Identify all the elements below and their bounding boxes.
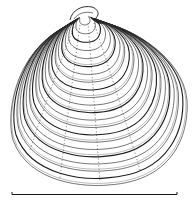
growth-lines — [11, 17, 187, 186]
shell-figure: Bivalve shell illustration — [0, 0, 195, 202]
shell-illustration — [0, 0, 195, 202]
scale-bar — [12, 192, 177, 195]
